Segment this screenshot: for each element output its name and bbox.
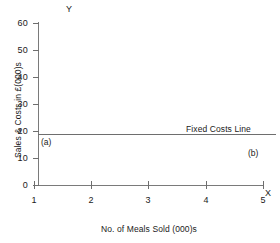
y-axis-title: Sales & Costs in £(000)s bbox=[13, 40, 23, 180]
y-tick-mark bbox=[33, 104, 39, 105]
annotation-a: (a) bbox=[41, 137, 51, 147]
x-tick-label: 1 bbox=[24, 196, 44, 205]
x-tick-mark bbox=[263, 181, 264, 189]
y-tick-label: 60 bbox=[4, 19, 28, 28]
chart-figure: Y X 0 10 20 30 40 50 60 1 2 3 4 5 Fixed … bbox=[0, 0, 280, 243]
x-tick-mark bbox=[148, 181, 149, 189]
y-tick-mark bbox=[33, 77, 39, 78]
x-tick-mark bbox=[91, 181, 92, 189]
y-tick-mark bbox=[33, 131, 39, 132]
x-tick-label: 5 bbox=[253, 196, 273, 205]
x-axis-title: No. of Meals Sold (000)s bbox=[34, 224, 264, 234]
y-tick-label: 0 bbox=[4, 181, 28, 190]
annotation-b: (b) bbox=[248, 148, 258, 158]
y-tick-mark bbox=[33, 158, 39, 159]
x-tick-label: 4 bbox=[196, 196, 216, 205]
x-tick-mark bbox=[206, 181, 207, 189]
y-tick-mark bbox=[33, 50, 39, 51]
fixed-costs-line bbox=[38, 134, 276, 135]
x-tick-label: 2 bbox=[81, 196, 101, 205]
x-tick-mark bbox=[34, 181, 35, 189]
fixed-costs-line-label: Fixed Costs Line bbox=[186, 124, 251, 134]
x-axis-line bbox=[34, 185, 264, 186]
y-tick-mark bbox=[33, 23, 39, 24]
y-axis-letter: Y bbox=[66, 4, 72, 14]
x-tick-label: 3 bbox=[138, 196, 158, 205]
